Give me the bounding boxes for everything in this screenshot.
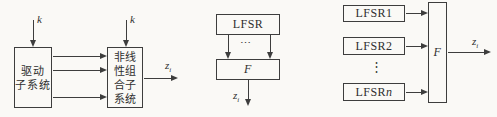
key-label-right: k [130, 14, 135, 25]
ellipsis-horizontal: ⋯ [240, 38, 252, 49]
output-label: zi [233, 90, 239, 106]
connector-line [406, 13, 422, 14]
arrowhead-right-icon [421, 43, 428, 49]
arrowhead-right-icon [171, 75, 178, 81]
key-input-line-right [126, 20, 127, 41]
arrowhead-right-icon [421, 89, 428, 95]
key-label-left: k [37, 14, 42, 25]
nonlinear-combiner-box: 非线 性组 合子 系统 [107, 47, 143, 108]
lfsr1-box: LFSR1 [343, 5, 405, 22]
connector-line [406, 46, 422, 47]
arrowhead-right-icon [100, 53, 107, 59]
output-line [144, 78, 172, 79]
arrowhead-right-icon [100, 67, 107, 73]
arrowhead-right-icon [100, 94, 107, 100]
lfsr-structure-figure: k k 驱动 子系统 非线 性组 合子 系统 zi LFSR [0, 0, 497, 117]
key-input-line-left [33, 20, 34, 41]
output-line [248, 80, 249, 100]
combining-function-box: F [428, 2, 447, 103]
connector-line [406, 92, 422, 93]
connector-line [228, 35, 229, 53]
arrowhead-down-icon [245, 99, 251, 106]
lfsr2-box: LFSR2 [343, 37, 405, 55]
output-label: zi [165, 60, 171, 76]
combining-function-label: F [434, 45, 442, 60]
ellipsis-vertical: ⋮ [370, 60, 383, 73]
arrowhead-down-icon [225, 52, 231, 59]
arrowhead-down-icon [267, 52, 273, 59]
output-line [448, 52, 485, 53]
lfsrn-label: LFSRn [355, 85, 392, 100]
arrowhead-down-icon [123, 40, 129, 47]
connector-line [270, 35, 271, 53]
connector-line [53, 97, 101, 98]
lfsr1-label: LFSR1 [355, 6, 392, 21]
arrowhead-right-icon [421, 10, 428, 16]
nonlinear-combiner-label: 非线 性组 合子 系统 [114, 50, 136, 106]
drive-subsystem-label: 驱动 子系统 [15, 64, 51, 92]
output-label: zi [472, 36, 478, 52]
arrowhead-right-icon [484, 49, 491, 55]
lfsr-box: LFSR [216, 14, 280, 35]
drive-subsystem-box: 驱动 子系统 [14, 47, 52, 108]
arrowhead-down-icon [30, 40, 36, 47]
connector-line [53, 56, 101, 57]
connector-line [53, 70, 101, 71]
filter-function-label: F [244, 62, 252, 77]
filter-function-box: F [216, 59, 280, 80]
lfsr2-label: LFSR2 [355, 39, 392, 54]
lfsrn-box: LFSRn [343, 83, 405, 101]
lfsr-label: LFSR [233, 17, 264, 32]
